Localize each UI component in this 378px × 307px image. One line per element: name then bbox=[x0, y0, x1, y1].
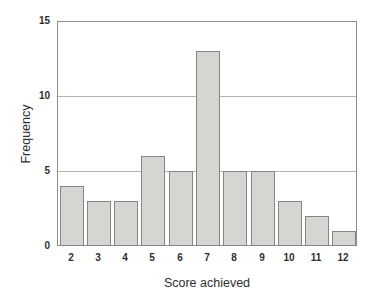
bar-score-3 bbox=[87, 201, 111, 246]
y-tick-label-5: 5 bbox=[18, 165, 50, 177]
y-tick-label-0: 0 bbox=[18, 240, 50, 252]
x-tick-label-10: 10 bbox=[275, 252, 303, 264]
bar-score-12 bbox=[332, 231, 356, 246]
bar-score-10 bbox=[278, 201, 302, 246]
plot-area bbox=[57, 21, 357, 246]
bar-score-4 bbox=[114, 201, 138, 246]
bar-score-2 bbox=[60, 186, 84, 246]
bar-score-6 bbox=[169, 171, 193, 246]
x-tick-label-4: 4 bbox=[111, 252, 139, 264]
x-tick-label-3: 3 bbox=[84, 252, 112, 264]
x-axis-title: Score achieved bbox=[57, 276, 357, 290]
bar-score-5 bbox=[141, 156, 165, 246]
x-tick-label-5: 5 bbox=[138, 252, 166, 264]
x-tick-label-9: 9 bbox=[248, 252, 276, 264]
x-tick-label-7: 7 bbox=[193, 252, 221, 264]
x-tick-label-11: 11 bbox=[302, 252, 330, 264]
x-tick-label-12: 12 bbox=[329, 252, 357, 264]
bar-score-9 bbox=[251, 171, 275, 246]
bar-chart: Frequency Score achieved 051015234567891… bbox=[0, 0, 378, 307]
bar-score-11 bbox=[305, 216, 329, 246]
bar-score-8 bbox=[223, 171, 247, 246]
x-tick-label-8: 8 bbox=[220, 252, 248, 264]
x-tick-label-6: 6 bbox=[166, 252, 194, 264]
y-tick-label-15: 15 bbox=[18, 15, 50, 27]
bar-score-7 bbox=[196, 51, 220, 246]
x-tick-label-2: 2 bbox=[57, 252, 85, 264]
y-tick-label-10: 10 bbox=[18, 90, 50, 102]
